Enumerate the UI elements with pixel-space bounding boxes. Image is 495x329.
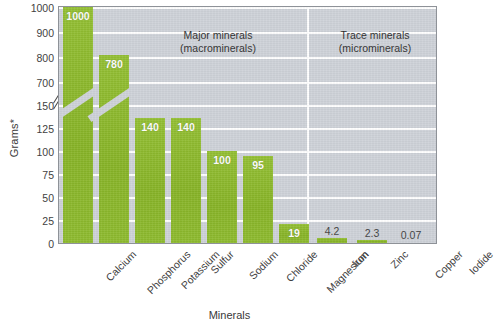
annotation-major-line1: Major minerals — [153, 29, 283, 42]
y-tick-25: 25 — [20, 216, 54, 227]
bar-value-copper: 0.07 — [393, 229, 429, 241]
annotation-major-line2: (macrominerals) — [153, 42, 283, 55]
bar-value-potassium: 140 — [135, 121, 165, 133]
annotation-trace-line2: (microminerals) — [315, 42, 435, 55]
y-tick-75: 75 — [20, 170, 54, 181]
bar-value-calcium: 1000 — [63, 10, 93, 22]
y-tick-150: 150 — [20, 101, 54, 112]
y-tick-1000: 1000 — [20, 3, 54, 14]
bar-value-zinc: 2.3 — [357, 227, 387, 239]
x-tick-chloride: Chloride — [283, 248, 319, 284]
bar-value-phosphorus: 780 — [99, 58, 129, 70]
x-axis-title: Minerals — [0, 309, 459, 321]
y-tick-50: 50 — [20, 193, 54, 204]
y-tick-100: 100 — [20, 147, 54, 158]
bar-zinc — [357, 240, 387, 243]
bar-value-chloride: 95 — [243, 159, 273, 171]
bar-value-magnesium: 19 — [279, 227, 309, 239]
bar-value-sodium: 100 — [207, 154, 237, 166]
y-tick-125: 125 — [20, 124, 54, 135]
group-divider-line — [307, 7, 309, 243]
bar-value-iron: 4.2 — [317, 225, 347, 237]
bar-calcium — [63, 7, 93, 243]
bar-value-iodide: 0.02 — [431, 229, 437, 241]
bar-phosphorus — [99, 55, 129, 243]
x-tick-iodide: Iodide — [466, 248, 495, 277]
x-tick-calcium: Calcium — [103, 248, 138, 283]
annotation-trace-line1: Trace minerals — [315, 29, 435, 42]
bar-potassium — [135, 118, 165, 243]
y-tick-800: 800 — [20, 53, 54, 64]
plot-area: 1000 780 140 140 100 95 19 4.2 2.3 0.07 … — [58, 6, 437, 244]
y-tick-0: 0 — [20, 239, 54, 250]
x-tick-copper: Copper — [432, 248, 465, 281]
annotation-major-minerals: Major minerals (macrominerals) — [153, 29, 283, 55]
annotation-trace-minerals: Trace minerals (microminerals) — [315, 29, 435, 55]
gridline-1000 — [59, 7, 436, 9]
bar-sulfur — [171, 118, 201, 243]
bar-value-sulfur: 140 — [171, 121, 201, 133]
y-axis-tick-labels: 1000 900 800 700 150 125 100 75 50 25 0 — [16, 0, 54, 329]
x-tick-zinc: Zinc — [388, 248, 411, 271]
y-tick-700: 700 — [20, 78, 54, 89]
x-tick-sodium: Sodium — [246, 248, 280, 282]
y-tick-900: 900 — [20, 28, 54, 39]
bar-iron — [317, 238, 347, 243]
